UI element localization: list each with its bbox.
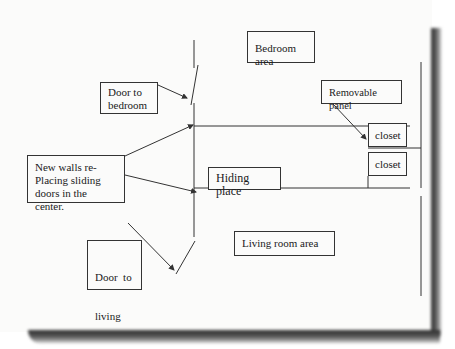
closet-bottom-text: closet [375,158,401,170]
door-to-living-room-label: Door to living room [87,240,142,290]
new-walls-line-2: Placing sliding [35,174,117,187]
arrow-new-wall-top [125,125,193,156]
door-to-living-line-1: Door to [95,271,134,284]
door-to-bedroom-line-2: bedroom [108,99,150,112]
door-bedroom-leaf [191,65,198,105]
new-walls-line-1: New walls re- [35,161,117,174]
living-room-area-text: Living room area [242,237,318,249]
new-walls-label: New walls re- Placing sliding doors in t… [27,155,125,203]
hiding-place-label: Hiding place [208,167,281,190]
living-room-area-label: Living room area [234,231,335,256]
closet-top-label: closet [368,123,407,147]
door-to-living-line-2: living [95,310,134,323]
closet-top-text: closet [375,129,401,141]
bedroom-area-label: Bedroom area [247,31,315,63]
arrow-door-bedroom [158,85,187,98]
door-living-leaf [176,241,195,274]
arrow-new-wall-bottom [125,175,196,192]
closet-bottom-label: closet [368,152,407,176]
removable-panel-label: Removable panel [321,80,402,104]
new-walls-line-3: doors in the center. [35,187,117,213]
door-to-bedroom-line-1: Door to [108,86,150,99]
door-to-bedroom-label: Door to bedroom [100,82,158,114]
